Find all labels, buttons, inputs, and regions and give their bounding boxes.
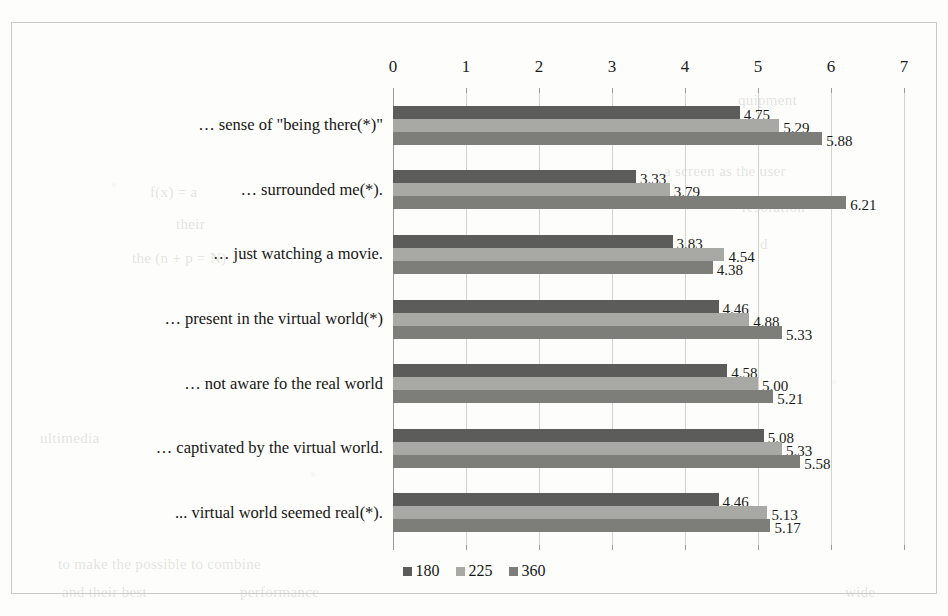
chart-legend: 180225360: [12, 563, 936, 579]
bar-360-cat4: [393, 390, 773, 403]
bar-180-cat3: [393, 300, 719, 313]
legend-label: 225: [469, 563, 493, 579]
chart-page: quipmentxperiment wasa screen as the use…: [0, 0, 948, 616]
chart-row: … present in the virtual world(*)4.464.8…: [393, 300, 904, 339]
tick-top-3: [612, 88, 613, 93]
bar-225-cat0: [393, 119, 779, 132]
category-label: ... virtual world seemed real(*).: [175, 505, 383, 522]
tick-top-4: [685, 88, 686, 93]
bar-225-cat5: [393, 442, 782, 455]
bar-360-cat5: [393, 455, 800, 468]
tick-top-2: [539, 88, 540, 93]
tick-bottom-0: [393, 545, 394, 550]
bar-value-label: 6.21: [850, 198, 876, 213]
category-label: … just watching a movie.: [213, 246, 383, 263]
bar-180-cat4: [393, 364, 727, 377]
tick-top-5: [758, 88, 759, 93]
legend-label: 180: [416, 563, 440, 579]
category-label: … sense of "being there(*)": [198, 117, 383, 134]
bar-360-cat6: [393, 519, 770, 532]
legend-label: 360: [522, 563, 546, 579]
bar-360-cat0: [393, 132, 822, 145]
x-tick-label-2: 2: [535, 57, 544, 77]
legend-swatch-icon: [456, 567, 465, 576]
x-tick-label-4: 4: [681, 57, 690, 77]
category-label: … present in the virtual world(*): [164, 311, 383, 328]
bar-value-label: 5.33: [786, 328, 812, 343]
bar-180-cat2: [393, 235, 673, 248]
x-tick-label-0: 0: [389, 57, 398, 77]
tick-top-6: [831, 88, 832, 93]
bar-360-cat2: [393, 261, 713, 274]
category-label: … not aware fo the real world: [184, 376, 383, 393]
chart-row: … not aware fo the real world4.585.005.2…: [393, 364, 904, 403]
legend-item-225[interactable]: 225: [456, 563, 493, 579]
tick-top-1: [466, 88, 467, 93]
bar-value-label: 4.38: [717, 263, 743, 278]
tick-bottom-7: [904, 545, 905, 550]
bar-225-cat1: [393, 183, 670, 196]
chart-row: … surrounded me(*).3.333.796.21: [393, 170, 904, 209]
category-label: … captivated by the virtual world.: [156, 440, 383, 457]
tick-bottom-6: [831, 545, 832, 550]
x-tick-label-6: 6: [827, 57, 836, 77]
chart-row: … just watching a movie.3.834.544.38: [393, 235, 904, 274]
bar-180-cat5: [393, 429, 764, 442]
bar-value-label: 5.17: [774, 521, 800, 536]
bar-360-cat3: [393, 326, 782, 339]
legend-item-360[interactable]: 360: [509, 563, 546, 579]
tick-top-7: [904, 88, 905, 93]
bar-180-cat6: [393, 493, 719, 506]
x-tick-label-1: 1: [462, 57, 471, 77]
bar-225-cat2: [393, 248, 724, 261]
tick-bottom-3: [612, 545, 613, 550]
category-label: … surrounded me(*).: [240, 182, 383, 199]
bar-value-label: 5.88: [826, 134, 852, 149]
plot-area: … sense of "being there(*)"4.755.295.88……: [393, 93, 904, 545]
chart-row: … sense of "being there(*)"4.755.295.88: [393, 106, 904, 145]
legend-swatch-icon: [509, 567, 518, 576]
legend-item-180[interactable]: 180: [403, 563, 440, 579]
bar-360-cat1: [393, 196, 846, 209]
x-tick-label-7: 7: [900, 57, 909, 77]
tick-bottom-4: [685, 545, 686, 550]
bar-value-label: 5.21: [777, 392, 803, 407]
legend-swatch-icon: [403, 567, 412, 576]
bar-225-cat4: [393, 377, 758, 390]
chart-frame: 01234567 … sense of "being there(*)"4.75…: [11, 22, 937, 594]
chart-row: … captivated by the virtual world.5.085.…: [393, 429, 904, 468]
bar-225-cat6: [393, 506, 767, 519]
x-tick-label-3: 3: [608, 57, 617, 77]
tick-bottom-5: [758, 545, 759, 550]
gridline-7: [904, 93, 905, 545]
x-tick-label-5: 5: [754, 57, 763, 77]
bar-value-label: 5.58: [804, 457, 830, 472]
bar-180-cat0: [393, 106, 740, 119]
tick-top-0: [393, 88, 394, 93]
bar-180-cat1: [393, 170, 636, 183]
bar-225-cat3: [393, 313, 749, 326]
tick-bottom-2: [539, 545, 540, 550]
x-axis-labels: 01234567: [393, 57, 904, 83]
chart-row: ... virtual world seemed real(*).4.465.1…: [393, 493, 904, 532]
tick-bottom-1: [466, 545, 467, 550]
